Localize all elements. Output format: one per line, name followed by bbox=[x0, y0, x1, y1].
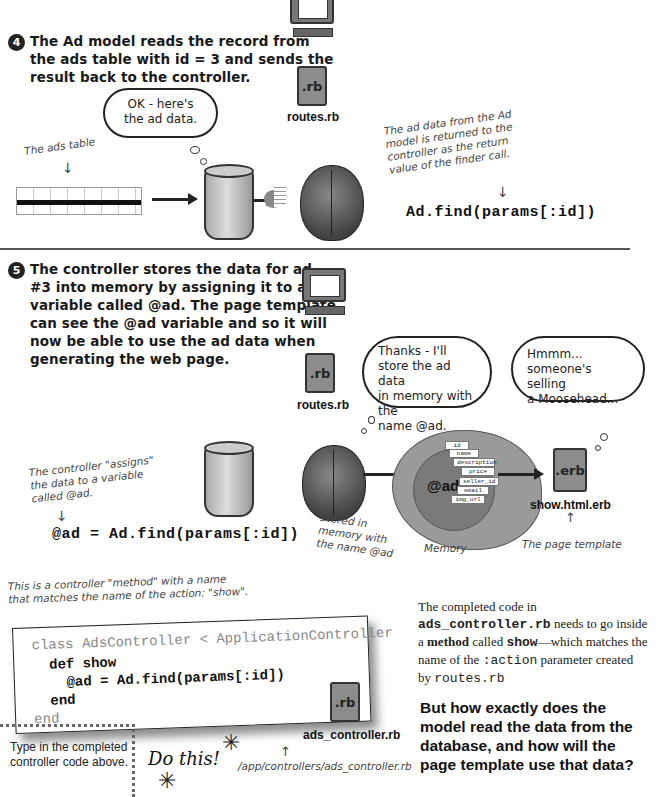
ruby-file-icon: .rb bbox=[330, 682, 360, 722]
database-icon bbox=[204, 168, 254, 240]
thought-bubble-dot bbox=[600, 433, 608, 441]
thought-bubble-dot bbox=[200, 158, 207, 165]
step-4-text: The Ad model reads the record from the a… bbox=[30, 32, 334, 86]
field-tag: seller_id bbox=[459, 477, 499, 486]
computer-monitor-icon bbox=[290, 0, 334, 24]
ads-table-thumbnail bbox=[16, 187, 142, 215]
field-tag: email bbox=[457, 486, 489, 495]
code-line-class: class AdsController < ApplicationControl… bbox=[31, 624, 393, 655]
closing-question: But how exactly does the model read the … bbox=[420, 698, 634, 774]
memory-blob: @ad id name description price seller_id … bbox=[392, 430, 542, 550]
method-annotation: This is a controller "method" with a nam… bbox=[8, 572, 249, 606]
instruction-text: Type in the completed controller code ab… bbox=[10, 740, 128, 770]
assign-note: The controller "assigns" the data to a v… bbox=[28, 454, 157, 506]
explanation-text: The completed code in ads_controller.rb … bbox=[418, 598, 648, 687]
routes-file-label: routes.rb bbox=[297, 398, 349, 412]
thought-bubble-dot bbox=[361, 428, 367, 434]
keyboard-icon bbox=[305, 306, 345, 315]
curved-arrow-icon: ↑ bbox=[565, 510, 576, 525]
step-5-badge: 5 bbox=[8, 262, 25, 279]
thought-bubble-dot bbox=[595, 445, 601, 451]
field-tag: name bbox=[449, 449, 479, 458]
do-this-label: Do this! bbox=[148, 748, 220, 769]
ads-table-label: The ads table bbox=[23, 135, 95, 158]
stored-note: Stored in memory with the name @ad bbox=[316, 511, 398, 560]
curved-arrow-icon: ↓ bbox=[497, 184, 509, 200]
thought-bubble-dot bbox=[368, 416, 375, 424]
brain-icon bbox=[300, 165, 364, 241]
assign-code: @ad = Ad.find(params[:id]) bbox=[52, 526, 299, 543]
field-tag: description bbox=[453, 458, 495, 467]
curved-arrow-icon: ↑ bbox=[280, 744, 291, 759]
controller-thought-cloud: Thanks - I'll store the ad data in memor… bbox=[362, 336, 492, 408]
field-tag: img_url bbox=[451, 495, 485, 504]
curved-arrow-icon: ↓ bbox=[56, 508, 68, 524]
step-4-badge: 4 bbox=[8, 34, 25, 51]
database-icon bbox=[204, 445, 254, 517]
file-path-note: /app/controllers/ads_controller.rb bbox=[238, 760, 412, 773]
ruby-file-icon: .rb bbox=[305, 353, 335, 393]
controller-code-box: class AdsController < ApplicationControl… bbox=[12, 616, 371, 734]
find-code: Ad.find(params[:id]) bbox=[406, 204, 596, 221]
page-template-note: The page template bbox=[522, 538, 622, 551]
star-icon: ✳ bbox=[158, 768, 176, 793]
star-icon: ✳ bbox=[222, 730, 240, 755]
memory-label: Memory bbox=[424, 542, 467, 555]
field-tag: price bbox=[461, 467, 495, 476]
ruby-file-icon: .rb bbox=[297, 66, 327, 106]
brain-icon bbox=[302, 445, 366, 521]
arrow-right-icon bbox=[152, 198, 190, 201]
model-thought-cloud: OK - here's the ad data. bbox=[103, 88, 218, 138]
step-5-text: The controller stores the data for ad #3… bbox=[30, 260, 336, 368]
code-line-end-def: end bbox=[33, 691, 76, 710]
ad-variable-label: @ad bbox=[427, 477, 459, 494]
routes-file-label: routes.rb bbox=[287, 110, 339, 124]
data-fields-icon bbox=[274, 187, 286, 207]
computer-monitor-icon bbox=[302, 268, 346, 302]
thought-bubble-dot bbox=[190, 146, 200, 154]
template-thought-cloud: Hmmm... someone's selling a Moosehead... bbox=[511, 336, 645, 402]
erb-file-icon: .erb bbox=[553, 448, 587, 492]
arrow-right-icon bbox=[498, 473, 536, 476]
curved-arrow-icon: ↓ bbox=[62, 160, 74, 176]
section-divider bbox=[0, 248, 630, 250]
return-value-note: The ad data from the Ad model is returne… bbox=[383, 107, 518, 176]
controller-file-label: ads_controller.rb bbox=[303, 728, 400, 742]
